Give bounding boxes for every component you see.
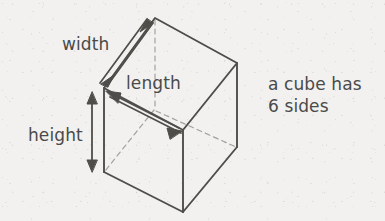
length-arrow-shaft-inner [110,97,181,133]
height-arrow-head-top [87,92,97,104]
note-line-1: a cube has [268,73,362,95]
cube-fact-note: a cube has 6 sides [268,73,362,117]
hidden-edges-group [105,20,236,171]
length-arrow-head-right [167,128,182,139]
width-arrow-head-lower [101,75,114,87]
label-length: length [126,72,181,94]
cube-diagram-canvas: width length height a cube has 6 sides [0,0,385,221]
cube-edge-bottom-right [183,147,237,212]
hidden-edge-to-bottom-left [105,110,154,171]
label-width: width [62,33,109,55]
height-arrow [87,92,97,172]
length-arrow-head-left [106,91,121,103]
note-line-2: 6 sides [268,95,362,117]
cube-edge-bottom-left [104,172,183,212]
height-arrow-head-bottom [87,160,97,172]
length-arrow [106,91,182,139]
cube-edges-group [104,18,237,212]
label-height: height [28,124,83,146]
